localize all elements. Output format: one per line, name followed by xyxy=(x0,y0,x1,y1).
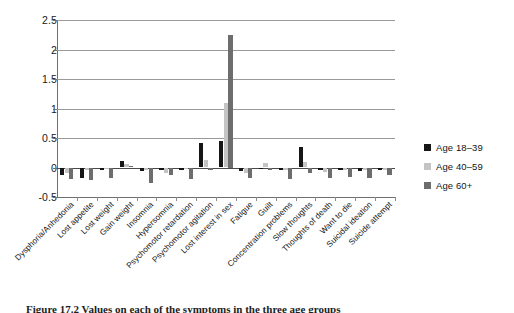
bar xyxy=(228,35,232,168)
legend-item: Age 60+ xyxy=(424,176,514,195)
bar xyxy=(259,168,263,170)
y-tick-label: 1 xyxy=(23,104,57,114)
bar xyxy=(164,168,168,174)
bar xyxy=(144,168,148,170)
legend-label: Age 18–39 xyxy=(436,142,483,153)
bar xyxy=(89,168,93,181)
x-axis-labels: Dysphoria/AnhedoniaLost appetiteLost wei… xyxy=(57,197,395,313)
legend-swatch-icon xyxy=(424,182,431,189)
bar xyxy=(263,163,267,167)
bar xyxy=(318,168,322,171)
bar xyxy=(129,166,133,167)
bar xyxy=(100,168,104,171)
bar xyxy=(239,168,243,172)
legend-label: Age 60+ xyxy=(436,180,472,191)
bar xyxy=(378,168,382,171)
gridline xyxy=(57,20,395,21)
bar xyxy=(124,164,128,168)
bar xyxy=(367,168,371,179)
x-tick-mark xyxy=(395,197,396,201)
bar xyxy=(248,168,252,178)
y-tick-label: 0 xyxy=(23,163,57,173)
bar xyxy=(268,168,272,170)
bar xyxy=(383,168,387,170)
bar xyxy=(283,168,287,170)
legend-item: Age 40–59 xyxy=(424,157,514,176)
bar xyxy=(199,143,203,168)
bar xyxy=(328,168,332,178)
bar xyxy=(204,160,208,167)
legend-label: Age 40–59 xyxy=(436,161,483,172)
bar xyxy=(60,168,64,175)
y-tick-label: 2 xyxy=(23,45,57,55)
figure-caption: Figure 17.2 Values on each of the sympto… xyxy=(26,303,496,313)
bar xyxy=(363,168,367,171)
bar xyxy=(159,168,163,170)
bar xyxy=(224,103,228,168)
bar xyxy=(303,162,307,168)
plot-area xyxy=(57,20,395,197)
bar xyxy=(387,168,391,176)
bar xyxy=(279,168,283,171)
bar xyxy=(65,168,69,173)
bar xyxy=(104,168,108,170)
y-tick-label: 0.5 xyxy=(23,133,57,143)
legend-item: Age 18–39 xyxy=(424,138,514,157)
bar xyxy=(149,168,153,184)
bar xyxy=(323,168,327,172)
legend-swatch-icon xyxy=(424,144,431,151)
bar xyxy=(184,168,188,170)
bar xyxy=(179,168,183,171)
bar xyxy=(189,168,193,179)
bar xyxy=(343,168,347,170)
bar xyxy=(120,161,124,167)
bar xyxy=(348,168,352,177)
y-tick-label: 1.5 xyxy=(23,74,57,84)
bar xyxy=(208,168,212,171)
y-tick-label: 2.5 xyxy=(23,15,57,25)
chart-legend: Age 18–39Age 40–59Age 60+ xyxy=(424,138,514,195)
bar xyxy=(85,168,89,171)
bar xyxy=(338,168,342,171)
bar xyxy=(244,168,248,174)
bar xyxy=(80,168,84,178)
bar xyxy=(69,168,73,180)
gridline xyxy=(57,79,395,80)
gridline xyxy=(57,50,395,51)
bar xyxy=(169,168,173,176)
bar xyxy=(219,141,223,168)
legend-swatch-icon xyxy=(424,163,431,170)
bar xyxy=(109,168,113,179)
bar xyxy=(140,168,144,172)
bar xyxy=(308,168,312,174)
bar xyxy=(288,168,292,179)
bar xyxy=(299,147,303,168)
figure-container: 2.521.510.50-0.5 Dysphoria/AnhedoniaLost… xyxy=(0,0,514,313)
y-tick-label: -0.5 xyxy=(23,192,57,202)
bar xyxy=(358,168,362,172)
